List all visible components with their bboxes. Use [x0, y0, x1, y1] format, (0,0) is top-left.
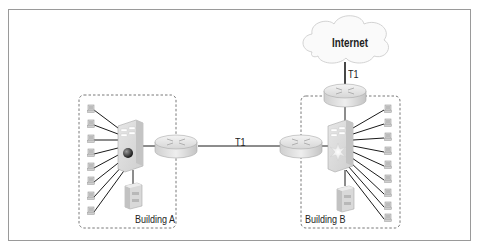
workstation-icon [385, 133, 392, 141]
workstation-icon [88, 177, 95, 185]
t1-main-link-label: T1 [235, 136, 246, 148]
workstation-icon [88, 163, 95, 171]
network-diagram [0, 0, 477, 247]
workstation-icon [385, 105, 392, 113]
workstation-icon [385, 147, 392, 155]
multilayer-switch-a-icon [118, 120, 143, 172]
building-a-workstations [88, 105, 95, 215]
workstation-icon [385, 214, 392, 222]
internet-label: Internet [332, 36, 368, 50]
workstation-icon [88, 135, 95, 143]
building-b-workstations [385, 105, 392, 222]
workstation-icon [385, 202, 392, 210]
workstation-icon [88, 120, 95, 128]
workstation-icon [88, 105, 95, 113]
workstation-icon [88, 192, 95, 200]
router-b-icon [280, 135, 322, 158]
server-a-icon [125, 183, 142, 209]
workstation-icon [385, 161, 392, 169]
building-a-label: Building A [135, 213, 175, 225]
server-b-icon [337, 186, 354, 212]
workstation-icon [385, 119, 392, 127]
router-wan-icon [324, 84, 366, 107]
workstation-icon [88, 207, 95, 215]
workstation-icon [88, 149, 95, 157]
router-a-icon [155, 135, 197, 158]
workstation-icon [385, 189, 392, 197]
workstation-icon [385, 175, 392, 183]
multilayer-switch-b-icon [328, 120, 353, 172]
building-b-label: Building B [305, 213, 346, 225]
t1-internet-link-label: T1 [348, 68, 359, 80]
